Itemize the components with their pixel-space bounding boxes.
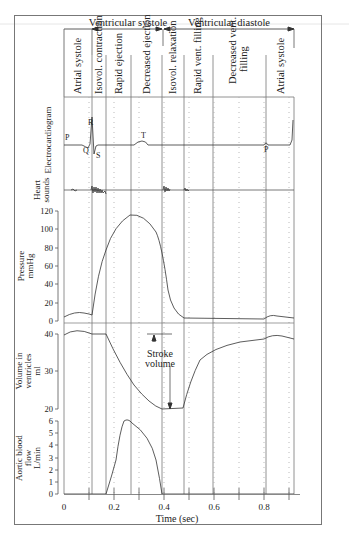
phase-label-isovol-contraction: Isovol. contraction	[93, 15, 104, 94]
svg-text:2: 2	[49, 465, 53, 475]
svg-text:20: 20	[45, 298, 54, 308]
svg-text:4: 4	[49, 440, 54, 450]
pressure-label-line2: mmHg	[25, 253, 35, 279]
svg-text:0.8: 0.8	[258, 502, 270, 512]
svg-text:80: 80	[45, 243, 54, 253]
svg-text:0.2: 0.2	[108, 502, 119, 512]
svg-text:0: 0	[62, 502, 67, 512]
panel-labels: Electrocardiogram Heart sounds Pressure …	[14, 107, 53, 481]
phase-label-atrial-systole-2: Atrial systole	[275, 37, 286, 94]
flow-axis	[55, 421, 58, 494]
phase-label-rapid-ejection: Rapid ejection	[113, 32, 124, 94]
phase-label-rapid-vent-filling: Rapid vent. filling	[192, 17, 203, 94]
x-axis-title: Time (sec)	[156, 513, 199, 525]
svg-text:3: 3	[49, 453, 53, 463]
time-gridlines	[89, 97, 289, 494]
svg-text:S: S	[96, 151, 100, 160]
cardiac-cycle-diagram: 120 100 80 60 40 20 0 40 30 20	[0, 0, 349, 533]
ecg-label: Electrocardiogram	[43, 107, 53, 174]
ecg-trace	[64, 117, 293, 154]
svg-text:1: 1	[49, 477, 53, 487]
svg-text:T: T	[141, 131, 146, 140]
svg-text:5: 5	[49, 428, 53, 438]
svg-text:R: R	[88, 118, 94, 127]
stroke-volume-label-line2: volume	[145, 358, 176, 369]
stroke-volume-arrow	[147, 334, 172, 409]
svg-text:0: 0	[49, 489, 53, 499]
svg-text:120: 120	[40, 206, 53, 216]
pressure-tick-labels: 120 100 80 60 40 20 0	[40, 206, 53, 326]
phase-label-decreased-ejection: Decreased ejection	[141, 14, 152, 94]
phase-label-atrial-systole: Atrial systole	[72, 37, 83, 94]
volume-label-line3: ml	[32, 366, 42, 376]
svg-text:100: 100	[40, 224, 53, 234]
heart-sounds-label-line2: sounds	[41, 177, 51, 203]
svg-text:40: 40	[45, 329, 54, 339]
flow-tick-labels: 6 5 4 3 2 1 0	[49, 416, 54, 499]
volume-curve	[64, 331, 294, 409]
svg-text:40: 40	[45, 279, 54, 289]
svg-text:Q: Q	[83, 146, 89, 155]
flow-label-line3: L/min	[32, 447, 42, 469]
aortic-flow-curve	[64, 420, 294, 494]
svg-text:30: 30	[45, 366, 54, 376]
phase-label-decreased-vent-filling: Decreased vent.	[227, 17, 238, 84]
svg-text:0: 0	[49, 316, 53, 326]
svg-text:0.6: 0.6	[208, 502, 220, 512]
svg-text:20: 20	[45, 404, 54, 414]
pressure-axis	[55, 211, 58, 321]
svg-text:6: 6	[49, 416, 53, 426]
x-axis-tick-labels: 0 0.2 0.4 0.6 0.8	[62, 502, 270, 512]
volume-tick-labels: 40 30 20	[45, 329, 54, 414]
phase-label-decreased-vent-filling-line2: filling	[238, 46, 249, 72]
volume-axis	[55, 334, 58, 409]
pressure-curve	[64, 215, 294, 319]
diagram-canvas: 120 100 80 60 40 20 0 40 30 20	[0, 0, 349, 533]
phase-boundaries	[92, 55, 294, 494]
svg-text:P: P	[264, 145, 269, 154]
phase-label-isovol-relaxation: Isovol. relaxation	[167, 20, 178, 94]
svg-text:0.4: 0.4	[158, 502, 170, 512]
svg-text:60: 60	[45, 261, 54, 271]
svg-text:P: P	[65, 133, 70, 142]
ecg-wave-labels: P Q R S T P	[65, 118, 269, 160]
